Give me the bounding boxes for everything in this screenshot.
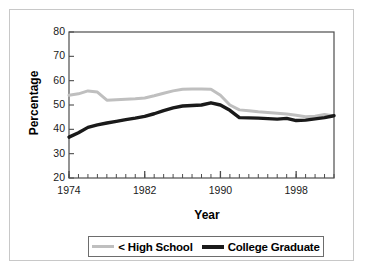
x-tick-label: 1974 [52, 184, 86, 196]
line-chart-plot [10, 10, 353, 260]
figure-outer-border: 80706050403020 1974198219901998 Percenta… [9, 9, 354, 261]
chart-legend: < High School College Graduate [88, 236, 324, 257]
x-tick-label: 1982 [128, 184, 162, 196]
x-tick-label: 1998 [279, 184, 313, 196]
legend-item-less-than-high-school[interactable]: < High School [92, 241, 192, 253]
y-tick-label: 80 [43, 25, 65, 37]
black-line-swatch [202, 245, 224, 249]
legend-item-label: College Graduate [228, 241, 320, 253]
y-tick-label: 40 [43, 122, 65, 134]
x-tick-label: 1990 [203, 184, 237, 196]
chart-figure: 80706050403020 1974198219901998 Percenta… [0, 0, 365, 273]
legend-item-label: < High School [118, 241, 192, 253]
y-axis-title: Percentage [27, 63, 41, 143]
y-tick-label: 20 [43, 171, 65, 183]
gray-line-swatch [92, 245, 114, 248]
y-tick-label: 70 [43, 49, 65, 61]
x-axis-title: Year [152, 208, 262, 222]
y-tick-label: 50 [43, 98, 65, 110]
y-tick-label: 60 [43, 74, 65, 86]
y-tick-label: 30 [43, 147, 65, 159]
legend-item-college-graduate[interactable]: College Graduate [202, 241, 320, 253]
